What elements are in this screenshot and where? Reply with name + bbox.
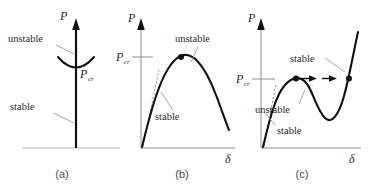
figure-stability-diagrams: P P cr unstable stable P δ P cr unstable…	[0, 0, 373, 195]
annotation-unstable-a: unstable	[8, 33, 43, 44]
critical-load-sub-b: cr	[124, 58, 130, 66]
snap-start-point-c	[293, 76, 299, 82]
leader-stable-upper-c	[325, 58, 345, 72]
critical-load-label-b: P	[115, 50, 124, 64]
leader-unstable-c	[299, 90, 305, 104]
panel-c: P δ P cr stable unstable stable	[233, 0, 373, 195]
annotation-stable-a: stable	[10, 101, 35, 112]
caption-a: (a)	[32, 168, 92, 180]
annotation-stable-upper-c: stable	[290, 53, 315, 64]
leader-stable-a	[53, 113, 74, 123]
snap-arrowhead-1-c	[309, 75, 317, 81]
p-axis-label-a: P	[59, 9, 68, 23]
snap-end-point-c	[346, 76, 352, 82]
critical-load-label-c: P	[235, 72, 244, 86]
snap-arrowhead-2-c	[329, 75, 337, 81]
peak-point-b	[178, 54, 184, 60]
p-axis-label-b: P	[127, 11, 136, 25]
caption-c: (c)	[272, 168, 332, 180]
p-axis-label-c: P	[247, 11, 256, 25]
annotation-unstable-b: unstable	[175, 33, 210, 44]
annotation-stable-b: stable	[155, 111, 180, 122]
annotation-stable-lower-c: stable	[277, 125, 302, 136]
critical-load-sub-a: cr	[88, 75, 94, 83]
annotation-unstable-c: unstable	[255, 104, 290, 115]
delta-axis-label-c: δ	[349, 152, 355, 166]
p-axis-arrowhead-c	[257, 18, 265, 30]
panel-b: P δ P cr unstable stable	[113, 0, 240, 195]
equilibrium-curve-b	[142, 55, 229, 147]
leader-unstable-a	[56, 45, 74, 54]
p-axis-arrowhead-b	[137, 18, 145, 30]
critical-load-sub-c: cr	[244, 80, 250, 88]
caption-b: (b)	[152, 168, 212, 180]
delta-axis-label-b: δ	[225, 152, 231, 166]
p-axis-arrowhead-a	[72, 18, 80, 30]
critical-load-label-a: P	[79, 67, 88, 81]
panel-a: P P cr unstable stable	[0, 0, 125, 195]
leader-stable-b	[161, 92, 173, 110]
